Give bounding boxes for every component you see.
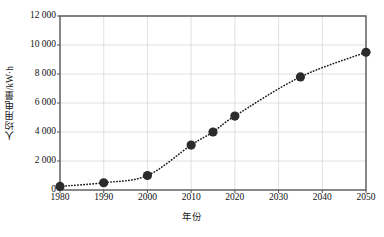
x-tick-label: 2050 xyxy=(357,193,376,203)
data-point-marker[interactable] xyxy=(143,171,152,180)
x-tick-label: 2020 xyxy=(225,193,244,203)
x-tick-label: 2040 xyxy=(313,193,332,203)
data-point-marker[interactable] xyxy=(296,72,305,81)
data-point-marker[interactable] xyxy=(55,182,64,191)
x-tick-label: 2000 xyxy=(138,193,157,203)
chart-figure: 人均用电量/kW·h 02 0004 0006 0008 00010 00012… xyxy=(0,0,384,237)
data-point-marker[interactable] xyxy=(230,111,239,120)
x-tick-label: 1980 xyxy=(51,193,70,203)
data-point-marker[interactable] xyxy=(187,140,196,149)
data-point-marker[interactable] xyxy=(361,48,370,57)
x-tick-label: 1990 xyxy=(94,193,113,203)
x-tick-label: 2010 xyxy=(182,193,201,203)
x-axis-title: 年份 xyxy=(0,209,384,223)
data-point-marker[interactable] xyxy=(208,127,217,136)
data-point-marker[interactable] xyxy=(99,178,108,187)
x-tick-label: 2030 xyxy=(269,193,288,203)
